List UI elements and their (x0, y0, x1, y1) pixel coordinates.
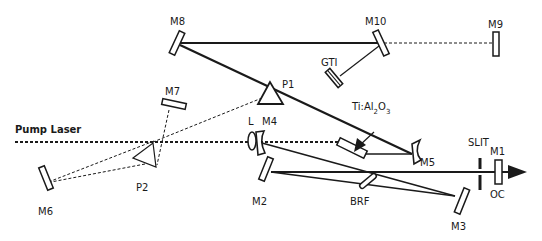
output-arrow (508, 165, 527, 179)
label-m2: M2 (252, 196, 267, 207)
label-m1: M1 (490, 146, 505, 157)
beam-p2-m6-b (51, 164, 145, 182)
mirror-m3 (454, 188, 469, 214)
laser-cavity-diagram: Pump Laser M8 M10 M9 GTI P1 M7 P2 M6 L M… (0, 0, 542, 241)
prism-p2 (133, 143, 156, 167)
mirror-m1-oc (495, 160, 502, 184)
label-crystal: Ti:Al2O3 (351, 101, 390, 116)
label-gti: GTI (321, 57, 337, 68)
label-oc: OC (490, 189, 505, 200)
label-crystal-o: O (378, 101, 386, 112)
label-m9: M9 (488, 19, 503, 30)
labels: Pump Laser M8 M10 M9 GTI P1 M7 P2 M6 L M… (15, 16, 505, 232)
label-m3: M3 (451, 221, 466, 232)
label-m5: M5 (420, 157, 435, 168)
crystal-ti-sapphire (337, 138, 367, 158)
prism-p1 (258, 82, 283, 104)
beam-p2-m6-a (51, 141, 154, 181)
label-p1: P1 (282, 79, 294, 90)
label-crystal-main: Ti:Al (351, 101, 374, 112)
mirror-m9 (493, 32, 499, 56)
label-m8: M8 (170, 16, 185, 27)
label-lens: L (248, 116, 254, 127)
label-pump-laser: Pump Laser (15, 124, 81, 135)
lens-l (248, 132, 256, 150)
label-crystal-sub2: 3 (386, 108, 390, 116)
diagram-svg: Pump Laser M8 M10 M9 GTI P1 M7 P2 M6 L M… (0, 0, 542, 241)
label-m10: M10 (365, 16, 386, 27)
label-slit: SLIT (468, 137, 490, 148)
mirror-m7 (162, 99, 187, 110)
mirror-m6 (39, 166, 54, 191)
mirror-m2 (259, 157, 274, 182)
gti-element (325, 68, 342, 87)
beam-m8-p1-m5 (180, 45, 412, 154)
label-m6: M6 (38, 206, 53, 217)
label-m4: M4 (262, 116, 277, 127)
label-p2: P2 (136, 182, 148, 193)
beam-m10-gti (340, 46, 379, 76)
label-brf: BRF (350, 196, 370, 207)
label-m7: M7 (165, 86, 180, 97)
birefringent-filter (359, 173, 378, 190)
